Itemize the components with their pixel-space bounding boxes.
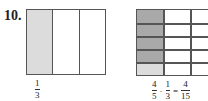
multiplication-equation: 4 5 · 1 3 = 4 15: [152, 80, 190, 101]
numerator: 1: [166, 80, 171, 89]
left-fraction-model: [26, 9, 106, 75]
unshaded-third: [80, 10, 105, 74]
fraction-term1: 4 5: [152, 80, 157, 101]
grid-line: [137, 49, 208, 51]
grid-line: [163, 10, 165, 75]
fraction-term2: 1 3: [166, 80, 171, 101]
denominator: 5: [152, 92, 157, 101]
unshaded-third: [53, 10, 80, 74]
shaded-third: [27, 10, 53, 74]
numerator: 4: [183, 80, 188, 89]
problem-number: 10.: [4, 8, 22, 24]
denominator: 3: [166, 92, 171, 101]
denominator: 3: [35, 91, 40, 100]
equals-sign: =: [173, 86, 178, 96]
right-fraction-model: [136, 9, 208, 76]
numerator: 4: [152, 80, 157, 89]
numerator: 1: [35, 79, 40, 88]
fraction-result: 4 15: [181, 80, 190, 101]
grid-line: [190, 10, 192, 75]
grid-line: [137, 23, 208, 25]
light-shaded-cell: [137, 62, 163, 75]
grid-line: [137, 36, 208, 38]
denominator: 15: [181, 92, 190, 101]
multiply-operator: ·: [160, 86, 163, 96]
grid-line: [137, 62, 208, 64]
left-fraction-label: 1 3: [35, 79, 40, 100]
